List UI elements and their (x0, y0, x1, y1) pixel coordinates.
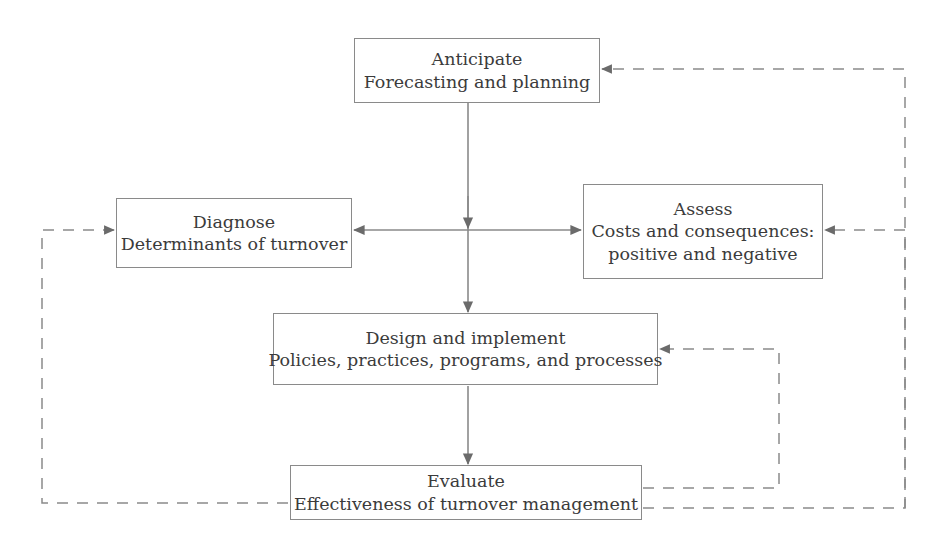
node-anticipate-title: Anticipate (432, 48, 523, 70)
node-assess: Assess Costs and consequences: positive … (583, 184, 823, 279)
node-design: Design and implement Policies, practices… (273, 313, 658, 385)
node-diagnose: Diagnose Determinants of turnover (116, 198, 352, 268)
node-anticipate-subtitle: Forecasting and planning (364, 71, 591, 93)
node-design-title: Design and implement (365, 327, 565, 349)
node-diagnose-title: Diagnose (193, 211, 275, 233)
node-evaluate: Evaluate Effectiveness of turnover manag… (290, 465, 642, 520)
node-assess-subtitle-line2: positive and negative (608, 243, 797, 265)
node-diagnose-subtitle: Determinants of turnover (121, 233, 348, 255)
node-assess-subtitle-line1: Costs and consequences: (591, 220, 814, 242)
connector-evaluate-to-anticipate-feedback (602, 69, 905, 508)
node-evaluate-subtitle: Effectiveness of turnover management (294, 493, 638, 515)
connector-evaluate-to-design-feedback (643, 349, 779, 488)
turnover-management-diagram: Anticipate Forecasting and planning Diag… (0, 0, 945, 554)
node-assess-title: Assess (674, 198, 733, 220)
node-evaluate-title: Evaluate (427, 470, 505, 492)
connector-evaluate-to-diagnose-feedback (42, 230, 288, 503)
node-anticipate: Anticipate Forecasting and planning (354, 38, 600, 103)
node-design-subtitle: Policies, practices, programs, and proce… (268, 349, 662, 371)
